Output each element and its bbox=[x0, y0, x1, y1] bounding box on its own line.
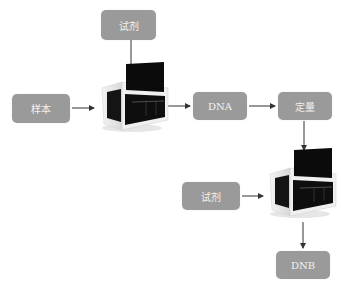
node-dnb: DNB bbox=[276, 251, 330, 279]
node-label: DNB bbox=[291, 260, 315, 271]
lab-instrument-icon bbox=[98, 62, 170, 134]
node-label: 试剂 bbox=[119, 18, 139, 33]
node-label: DNA bbox=[208, 101, 232, 112]
connector-layer bbox=[0, 0, 341, 287]
node-sample: 样本 bbox=[12, 94, 70, 123]
node-reagent-top: 试剂 bbox=[101, 10, 156, 40]
node-quantify: 定量 bbox=[278, 92, 332, 120]
node-reagent-bottom: 试剂 bbox=[182, 182, 240, 210]
lab-instrument-icon bbox=[266, 148, 338, 220]
node-label: 样本 bbox=[31, 101, 51, 116]
node-dna: DNA bbox=[193, 92, 247, 120]
node-label: 试剂 bbox=[201, 189, 221, 204]
node-label: 定量 bbox=[295, 99, 315, 114]
